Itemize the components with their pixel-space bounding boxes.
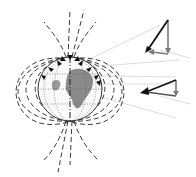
lower-field-vector (140, 80, 179, 96)
magnetic-field-diagram (0, 0, 196, 177)
earth-globe (38, 57, 102, 121)
diagram-canvas (0, 0, 196, 177)
projection-lines (88, 25, 190, 118)
upper-field-vector (145, 20, 171, 55)
